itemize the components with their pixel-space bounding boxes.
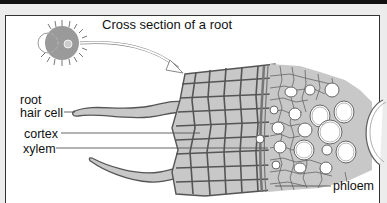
label-hair-cell: hair cell	[20, 107, 63, 120]
label-phloem: phloem	[333, 180, 374, 193]
diagram-title: Cross section of a root	[102, 17, 232, 32]
label-root: root	[20, 94, 42, 107]
label-cortex: cortex	[24, 128, 58, 141]
arrow-icon	[80, 42, 183, 73]
label-xylem: xylem	[23, 143, 56, 156]
cortex-cells	[172, 64, 275, 196]
